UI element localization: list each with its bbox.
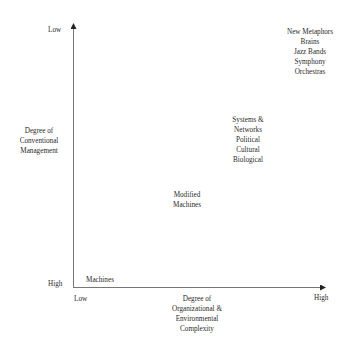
x-axis-title-line: Organizational & bbox=[162, 304, 232, 314]
item-line: Political bbox=[218, 135, 278, 145]
item-line: Networks bbox=[218, 125, 278, 135]
x-axis-title-line: Environmental bbox=[162, 314, 232, 324]
x-axis-title: Degree of Organizational & Environmental… bbox=[162, 294, 232, 334]
y-axis-title-line: Conventional bbox=[14, 136, 64, 146]
item-modified-machines: Modified Machines bbox=[164, 190, 210, 210]
x-axis-title-line: Degree of bbox=[162, 294, 232, 304]
item-line: New Metaphors bbox=[274, 27, 346, 37]
y-axis-title: Degree of Conventional Management bbox=[14, 126, 64, 156]
item-line: Symphony bbox=[274, 57, 346, 67]
x-axis-left-label: Low bbox=[74, 294, 87, 304]
item-line: Machines bbox=[164, 200, 210, 210]
y-axis-title-line: Management bbox=[14, 146, 64, 156]
item-line: Brains bbox=[274, 37, 346, 47]
item-new-metaphors: New Metaphors Brains Jazz Bands Symphony… bbox=[274, 27, 346, 77]
item-line: Systems & bbox=[218, 115, 278, 125]
y-axis-top-label: Low bbox=[48, 25, 61, 35]
item-line: Jazz Bands bbox=[274, 47, 346, 57]
x-axis-right-label: High bbox=[314, 293, 328, 303]
item-line: Cultural bbox=[218, 145, 278, 155]
x-axis-title-line: Complexity bbox=[162, 324, 232, 334]
item-line: Biological bbox=[218, 155, 278, 165]
item-line: Orchestras bbox=[274, 67, 346, 77]
item-machines: Machines bbox=[86, 275, 114, 285]
y-axis-title-line: Degree of bbox=[14, 126, 64, 136]
y-axis-bottom-label: High bbox=[48, 279, 62, 289]
item-line: Modified bbox=[164, 190, 210, 200]
item-systems-networks: Systems & Networks Political Cultural Bi… bbox=[218, 115, 278, 165]
